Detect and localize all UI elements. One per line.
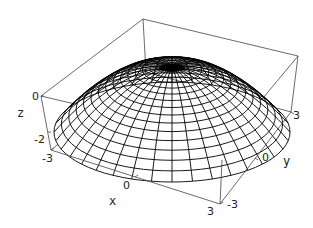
x-tick-neg3: -3 (42, 153, 53, 164)
z-tick-0: 0 (32, 91, 39, 102)
z-tick-neg2: -2 (34, 134, 45, 145)
y-tick-0: 0 (262, 152, 269, 163)
x-axis-label: x (109, 195, 116, 207)
y-tick-neg3: -3 (227, 199, 238, 210)
x-tick-3: 3 (207, 206, 214, 217)
x-tick-0: 0 (123, 180, 130, 191)
y-tick-3: 3 (293, 110, 300, 121)
z-axis-label: z (17, 107, 24, 119)
dome-surface (54, 57, 290, 183)
y-axis-label: y (283, 155, 290, 167)
surface-plot (0, 0, 313, 228)
